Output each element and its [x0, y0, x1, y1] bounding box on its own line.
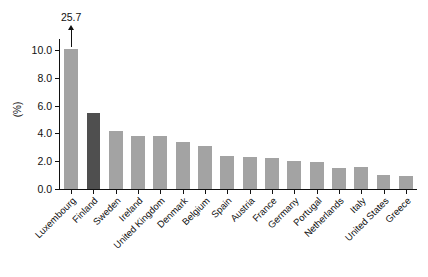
x-axis-tick-mark [272, 190, 273, 194]
bar-luxembourg [64, 49, 78, 189]
bar-portugal [310, 162, 324, 189]
x-axis-tick-mark [160, 190, 161, 194]
bar-denmark [176, 142, 190, 189]
x-axis-tick-mark [116, 190, 117, 194]
y-axis-tick-label: 2.0 [37, 156, 52, 166]
x-axis-tick-mark [71, 190, 72, 194]
x-axis-line [59, 189, 417, 190]
x-axis-tick-mark [183, 190, 184, 194]
x-axis-tick-mark [406, 190, 407, 194]
x-axis-tick-mark [205, 190, 206, 194]
plot-area [60, 39, 417, 189]
bar-belgium [198, 146, 212, 189]
bar-finland [87, 113, 101, 189]
bar-sweden [109, 131, 123, 189]
x-axis-tick-mark [339, 190, 340, 194]
x-axis-tick-mark [138, 190, 139, 194]
y-axis-tick-label: 6.0 [37, 101, 52, 111]
y-axis-label: (%) [12, 99, 23, 121]
x-axis-tick-mark [250, 190, 251, 194]
x-axis-tick-label: Austria [228, 195, 257, 224]
y-axis-tick-label: 8.0 [37, 73, 52, 83]
x-axis-tick-mark [294, 190, 295, 194]
clipped-bar-arrowhead-icon [68, 25, 74, 30]
x-axis-tick-mark [361, 190, 362, 194]
bar-ireland [131, 136, 145, 189]
y-axis-tick-label: 4.0 [37, 128, 52, 138]
bar-greece [399, 176, 413, 189]
bar-chart: (%) 0.02.04.06.08.010.0 LuxembourgFinlan… [0, 0, 428, 277]
x-axis-tick-mark [317, 190, 318, 194]
y-axis-tick-label: 10.0 [32, 45, 52, 55]
bar-italy [354, 167, 368, 189]
bar-france [265, 158, 279, 189]
bar-germany [287, 161, 301, 189]
clipped-bar-value-label: 25.7 [51, 11, 91, 23]
x-axis-tick-mark [227, 190, 228, 194]
bar-austria [243, 157, 257, 189]
clipped-bar-arrow [71, 29, 72, 47]
bar-spain [220, 156, 234, 189]
bar-netherlands [332, 168, 346, 189]
x-axis-tick-mark [93, 190, 94, 194]
x-axis-tick-mark [384, 190, 385, 194]
y-axis-tick-label: 0.0 [37, 184, 52, 194]
bar-united-states [377, 175, 391, 189]
bar-united-kingdom [153, 136, 167, 189]
